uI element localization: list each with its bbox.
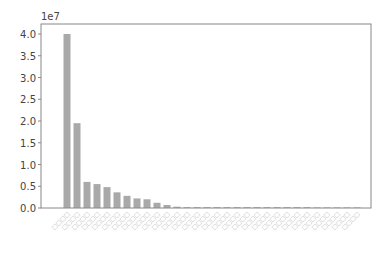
bar [124, 196, 131, 208]
bar [104, 187, 111, 208]
y-tick-label: 2.0 [20, 116, 36, 127]
y-tick-label: 0.5 [20, 181, 36, 192]
y-tick-label: 3.0 [20, 73, 36, 84]
y-tick-label: 2.5 [20, 94, 36, 105]
bar [94, 184, 101, 208]
y-tick-label: 1.0 [20, 160, 36, 171]
y-tick-label: 0.0 [20, 203, 36, 214]
bar [134, 198, 141, 208]
bar [74, 123, 81, 208]
bar [84, 182, 91, 208]
y-tick-label: 4.0 [20, 29, 36, 40]
y-tick-label: 3.5 [20, 51, 36, 62]
plot-frame [41, 24, 371, 208]
bar [114, 192, 121, 208]
y-offset-label: 1e7 [41, 11, 60, 22]
y-tick-label: 1.5 [20, 138, 36, 149]
x-axis: □□□□□□□□□□□□□□□□□□□□□□□□□□□□□□□□□□□□□□□□… [50, 210, 361, 231]
y-axis: 0.00.51.01.52.02.53.03.54.0 [20, 29, 41, 214]
bar-chart: 1e7 0.00.51.01.52.02.53.03.54.0 □□□□□□□□… [0, 0, 392, 255]
bar [144, 199, 151, 208]
bar [154, 203, 161, 208]
bar [64, 34, 71, 208]
bars [64, 34, 361, 208]
